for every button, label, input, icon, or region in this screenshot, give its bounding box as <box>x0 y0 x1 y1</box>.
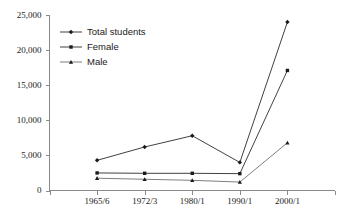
x-axis-ticks: 1965/61972/31980/11990/12000/1 <box>50 191 336 206</box>
series-total-students <box>95 20 290 165</box>
data-point-marker <box>95 158 99 162</box>
data-point-marker <box>285 141 289 145</box>
chart-legend: Total studentsFemaleMale <box>60 26 146 67</box>
y-axis-ticks: 05,00010,00015,00020,00025,000 <box>17 10 50 196</box>
x-tick-label: 1972/3 <box>132 196 158 206</box>
data-point-marker <box>142 145 146 149</box>
series-path <box>97 143 287 182</box>
x-tick-label: 2000/1 <box>275 196 300 206</box>
line-chart: 05,00010,00015,00020,00025,000 1965/6197… <box>0 0 343 221</box>
y-tick-label: 20,000 <box>17 45 42 55</box>
y-tick-label: 25,000 <box>17 10 42 20</box>
data-point-marker <box>69 45 72 48</box>
data-point-marker <box>191 172 194 175</box>
data-point-marker <box>238 160 242 164</box>
data-point-marker <box>285 20 289 24</box>
data-point-marker <box>69 30 73 34</box>
legend-item-male[interactable]: Male <box>60 56 108 67</box>
x-tick-label: 1980/1 <box>180 196 205 206</box>
x-tick-label: 1990/1 <box>227 196 252 206</box>
legend-label: Male <box>87 56 108 67</box>
data-series-group <box>95 20 290 184</box>
y-tick-label: 10,000 <box>17 115 42 125</box>
data-point-marker <box>95 171 98 174</box>
legend-label: Total students <box>87 26 146 37</box>
y-tick-label: 5,000 <box>21 150 42 160</box>
y-tick-label: 0 <box>37 185 42 195</box>
legend-label: Female <box>87 41 119 52</box>
series-path <box>97 70 287 173</box>
legend-item-total-students[interactable]: Total students <box>60 26 146 37</box>
series-male <box>95 141 290 184</box>
data-point-marker <box>238 172 241 175</box>
legend-item-female[interactable]: Female <box>60 41 119 52</box>
x-tick-label: 1965/6 <box>85 196 111 206</box>
data-point-marker <box>286 69 289 72</box>
chart-canvas: 05,00010,00015,00020,00025,000 1965/6197… <box>0 0 343 221</box>
data-point-marker <box>190 134 194 138</box>
series-female <box>95 69 289 176</box>
data-point-marker <box>143 172 146 175</box>
y-tick-label: 15,000 <box>17 80 42 90</box>
series-path <box>97 22 287 162</box>
